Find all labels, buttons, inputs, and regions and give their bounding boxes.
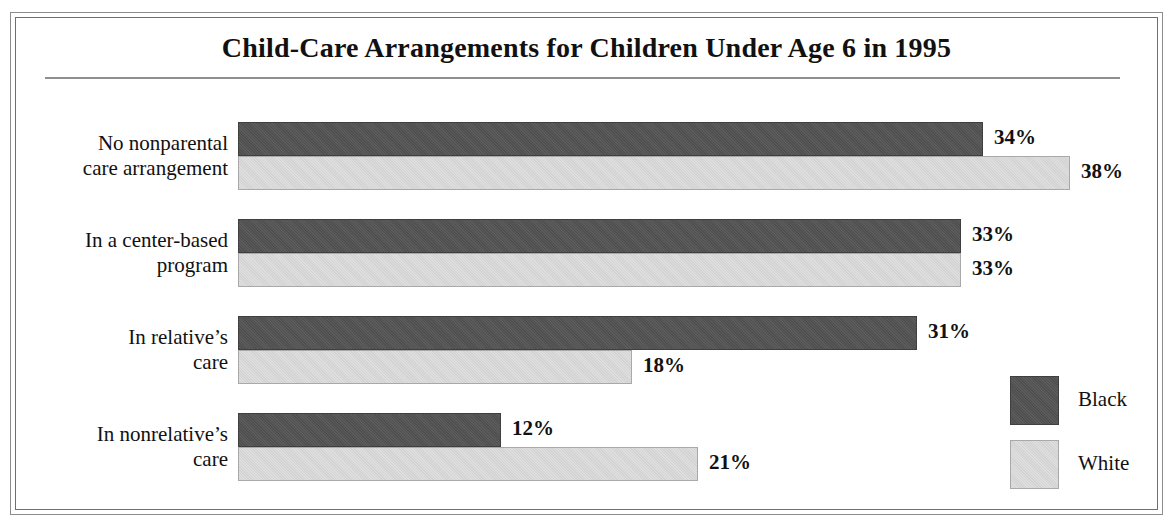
- category-label-line: In relative’s: [30, 325, 228, 350]
- bar-group: In relative’scare31%18%: [16, 316, 1157, 386]
- figure-frame: Child-Care Arrangements for Children Und…: [10, 12, 1163, 515]
- category-label-line: No nonparental: [30, 131, 228, 156]
- bar-row: 31%: [238, 316, 1157, 350]
- bar-group: No nonparentalcare arrangement34%38%: [16, 122, 1157, 192]
- bar-value-label: 33%: [972, 256, 1014, 281]
- bar-white: [238, 447, 698, 481]
- bar-group: In a center-basedprogram33%33%: [16, 219, 1157, 289]
- category-label-line: care arrangement: [30, 156, 228, 181]
- bar-black: [238, 122, 983, 156]
- bar-black: [238, 413, 501, 447]
- category-label-line: In a center-based: [30, 228, 228, 253]
- legend-swatch-white: [1010, 440, 1059, 489]
- category-label: In relative’scare: [30, 325, 228, 375]
- bar-row: 33%: [238, 219, 1157, 253]
- bar-white: [238, 350, 632, 384]
- legend-label: White: [1078, 451, 1129, 476]
- legend-swatch-black: [1010, 376, 1059, 425]
- bar-value-label: 38%: [1081, 159, 1123, 184]
- bar-white: [238, 253, 961, 287]
- bar-group-bars: 34%38%: [238, 122, 1157, 192]
- category-label-line: care: [30, 447, 228, 472]
- bar-black: [238, 316, 917, 350]
- category-label: No nonparentalcare arrangement: [30, 131, 228, 181]
- bar-row: 33%: [238, 253, 1157, 287]
- bar-value-label: 21%: [709, 450, 751, 475]
- bar-value-label: 31%: [928, 319, 970, 344]
- bar-row: 38%: [238, 156, 1157, 190]
- category-label: In a center-basedprogram: [30, 228, 228, 278]
- category-label-line: care: [30, 350, 228, 375]
- bar-group: In nonrelative’scare12%21%: [16, 413, 1157, 483]
- legend-item: White: [1010, 440, 1160, 490]
- bar-value-label: 12%: [512, 416, 554, 441]
- chart-plot-area: No nonparentalcare arrangement34%38%In a…: [16, 18, 1157, 509]
- chart-legend: BlackWhite: [1010, 376, 1160, 504]
- figure-frame-inner-border: Child-Care Arrangements for Children Und…: [15, 17, 1158, 510]
- category-label: In nonrelative’scare: [30, 422, 228, 472]
- category-label-line: program: [30, 253, 228, 278]
- legend-item: Black: [1010, 376, 1160, 426]
- bar-black: [238, 219, 961, 253]
- category-label-line: In nonrelative’s: [30, 422, 228, 447]
- bar-row: 34%: [238, 122, 1157, 156]
- bar-group-bars: 33%33%: [238, 219, 1157, 289]
- bar-white: [238, 156, 1070, 190]
- bar-value-label: 33%: [972, 222, 1014, 247]
- legend-label: Black: [1078, 387, 1127, 412]
- bar-value-label: 34%: [994, 125, 1036, 150]
- bar-value-label: 18%: [643, 353, 685, 378]
